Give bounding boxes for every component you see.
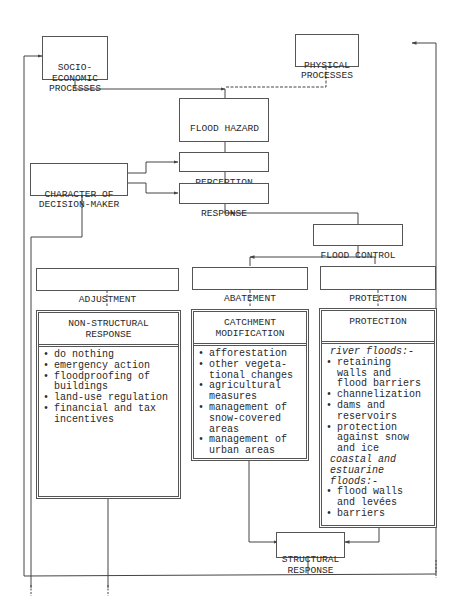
list-item: •financial and tax incentives	[42, 404, 178, 426]
adjustment-label: ADJUSTMENT	[79, 295, 137, 305]
catchment-title: CATCHMENT MODIFICATION	[194, 312, 306, 346]
list-item: •agricultural measures	[197, 381, 306, 403]
non-structural-list: •do nothing •emergency action •floodproo…	[39, 347, 178, 426]
character-label: CHARACTER OF DECISION-MAKER	[39, 190, 120, 211]
non-structural-response-panel: NON-STRUCTURAL RESPONSE •do nothing •eme…	[36, 310, 181, 499]
abatement-box: ABATEMENT	[192, 267, 308, 290]
perception-box: PERCEPTION	[179, 152, 269, 172]
abatement-label: ABATEMENT	[224, 294, 276, 304]
catchment-modification-panel: CATCHMENT MODIFICATION •afforestation •o…	[191, 309, 309, 461]
list-item: •management of snow-covered areas	[197, 403, 306, 435]
adjustment-box: ADJUSTMENT	[36, 268, 179, 291]
character-of-decision-maker-box: CHARACTER OF DECISION-MAKER	[30, 163, 128, 196]
list-item: •protection against snow and ice	[325, 423, 434, 455]
protection-list: river floods:- •retaining walls and floo…	[322, 344, 434, 520]
list-item: •barriers	[325, 509, 434, 520]
response-box: RESPONSE	[179, 183, 269, 204]
list-item: •dams and reservoirs	[325, 401, 434, 423]
protection-label: PROTECTION	[349, 294, 407, 304]
list-item: •flood walls and levées	[325, 487, 434, 509]
socio-economic-label: SOCIO- ECONOMIC PROCESSES	[49, 63, 101, 94]
structural-response-label: STRUCTURAL RESPONSE	[282, 555, 340, 576]
flood-hazard-title: FLOOD HAZARD	[184, 124, 268, 134]
flood-hazard-box: FLOOD HAZARD • EXPERIENCED • FORECAST	[179, 98, 269, 142]
protection-panel: PROTECTION river floods:- •retaining wal…	[319, 308, 437, 528]
flood-control-box: FLOOD CONTROL	[313, 224, 403, 246]
list-item: •other vegeta- tional changes	[197, 360, 306, 382]
physical-processes-label: PHYSICAL PROCESSES	[301, 61, 353, 82]
catchment-list: •afforestation •other vegeta- tional cha…	[194, 346, 306, 457]
protection-box: PROTECTION	[320, 266, 436, 290]
socio-economic-processes-box: SOCIO- ECONOMIC PROCESSES	[42, 36, 108, 80]
list-item: •floodproofing of buildings	[42, 372, 178, 394]
protection-panel-title: PROTECTION	[322, 311, 434, 344]
list-item: •management of urban areas	[197, 435, 306, 457]
response-label: RESPONSE	[201, 209, 247, 219]
list-item: •retaining walls and flood barriers	[325, 358, 434, 390]
coastal-floods-heading: coastal and estuarine floods:-	[325, 455, 434, 487]
structural-response-box: STRUCTURAL RESPONSE	[276, 532, 345, 558]
physical-processes-box: PHYSICAL PROCESSES	[295, 34, 359, 67]
flood-control-label: FLOOD CONTROL	[321, 251, 396, 261]
non-structural-title: NON-STRUCTURAL RESPONSE	[39, 313, 178, 347]
